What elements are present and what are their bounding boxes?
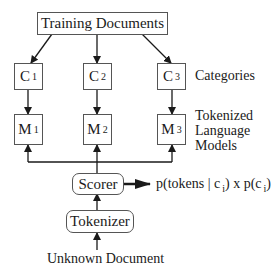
scorer-label: Scorer <box>78 176 117 193</box>
formula-part: p(tokens | c <box>156 176 220 191</box>
category-letter: C <box>163 68 173 85</box>
category-node-2: C2 <box>83 63 112 90</box>
training-documents-node: Training Documents <box>37 12 168 35</box>
categories-row-label: Categories <box>195 68 255 83</box>
model-node-1: M1 <box>14 114 43 145</box>
unknown-document-label: Unknown Document <box>47 251 164 266</box>
tokenizer-label: Tokenizer <box>70 213 130 230</box>
formula-part: ) <box>266 176 271 191</box>
category-index: 2 <box>101 71 106 82</box>
model-node-2: M2 <box>83 114 112 145</box>
model-letter: M <box>18 121 31 138</box>
formula-part: ) x p(c <box>225 176 262 191</box>
category-node-1: C1 <box>14 63 43 90</box>
scorer-output-formula: p(tokens | ci) x p(ci) <box>156 176 271 196</box>
category-letter: C <box>89 68 99 85</box>
model-node-3: M3 <box>157 114 186 145</box>
training-documents-label: Training Documents <box>41 15 164 32</box>
model-index: 1 <box>34 124 39 135</box>
scorer-node: Scorer <box>72 173 124 195</box>
model-letter: M <box>161 121 174 138</box>
model-index: 2 <box>103 124 108 135</box>
category-index: 1 <box>32 71 37 82</box>
category-index: 3 <box>175 71 180 82</box>
category-node-3: C3 <box>157 63 186 90</box>
models-label-line1: Tokenized <box>195 108 253 123</box>
category-letter: C <box>20 68 30 85</box>
tokenizer-node: Tokenizer <box>66 210 134 233</box>
models-row-label: Tokenized Language Models <box>195 108 253 153</box>
model-letter: M <box>87 121 100 138</box>
models-label-line2: Language <box>195 123 253 138</box>
model-index: 3 <box>177 124 182 135</box>
models-label-line3: Models <box>195 138 253 153</box>
